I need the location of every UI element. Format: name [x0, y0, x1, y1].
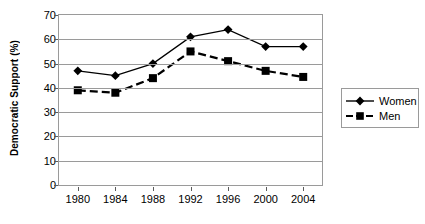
data-point-women-2004 [299, 42, 308, 51]
x-axis-tick-label: 2004 [291, 193, 315, 205]
y-axis-tick-mark [54, 112, 58, 113]
legend-label-women: Women [379, 95, 417, 107]
x-axis-tick-mark [228, 187, 229, 191]
y-axis-title-text: Democratic Support (%) [9, 40, 20, 156]
gridline [59, 39, 322, 40]
y-axis-tick-mark [54, 64, 58, 65]
y-axis-tick-label: 70 [30, 10, 56, 21]
y-axis-tick-labels: 010203040506070 [26, 0, 56, 224]
x-axis-tick-label: 1984 [103, 193, 127, 205]
x-axis-tick-mark [266, 187, 267, 191]
y-axis-tick-label: 30 [30, 107, 56, 118]
chart-legend: Women Men [341, 88, 419, 128]
y-axis-tick-mark [54, 185, 58, 186]
x-axis-tick-mark [303, 187, 304, 191]
data-point-men-1984 [111, 89, 119, 97]
x-axis-tick-label: 1988 [141, 193, 165, 205]
x-axis-tick-mark [191, 187, 192, 191]
gridline [59, 161, 322, 162]
y-axis-tick-mark [54, 161, 58, 162]
data-point-men-2004 [299, 73, 307, 81]
gridline [59, 136, 322, 137]
x-axis-tick-mark [115, 187, 116, 191]
plot-area [58, 14, 323, 186]
y-axis-tick-label: 0 [30, 180, 56, 191]
legend-key-diamond-icon [345, 94, 375, 108]
data-point-men-2000 [262, 67, 270, 75]
y-axis-tick-label: 60 [30, 34, 56, 45]
legend-label-men: Men [379, 110, 400, 122]
data-series-layer [59, 15, 322, 185]
data-point-women-2000 [261, 42, 270, 51]
legend-item-men: Men [345, 108, 415, 123]
x-axis-tick-label: 1992 [178, 193, 202, 205]
x-axis-tick-label: 2000 [253, 193, 277, 205]
x-axis-tick-label: 1980 [66, 193, 90, 205]
y-axis-tick-label: 40 [30, 82, 56, 93]
data-point-women-1980 [73, 66, 82, 75]
data-point-women-1996 [224, 25, 233, 34]
y-axis-title: Democratic Support (%) [2, 0, 26, 196]
y-axis-tick-label: 50 [30, 58, 56, 69]
data-point-men-1988 [149, 74, 157, 82]
x-axis-tick-mark [78, 187, 79, 191]
x-axis-tick-mark [153, 187, 154, 191]
x-axis-tick-label: 1996 [216, 193, 240, 205]
y-axis-tick-mark [54, 88, 58, 89]
y-axis-tick-mark [54, 136, 58, 137]
y-axis-tick-label: 10 [30, 155, 56, 166]
y-axis-tick-mark [54, 15, 58, 16]
data-point-men-1992 [187, 47, 195, 55]
gridline [59, 64, 322, 65]
gridline [59, 112, 322, 113]
data-point-women-1984 [111, 71, 120, 80]
gridline [59, 88, 322, 89]
y-axis-tick-mark [54, 39, 58, 40]
line-chart: Democratic Support (%) 010203040506070 1… [0, 0, 425, 224]
legend-key-square-icon [345, 109, 375, 123]
y-axis-tick-label: 20 [30, 131, 56, 142]
legend-item-women: Women [345, 93, 415, 108]
